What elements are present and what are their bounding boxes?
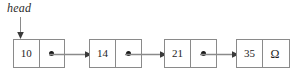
linked-list-diagram: head 10 14 21 — [0, 0, 302, 74]
node-value-1: 10 — [14, 40, 39, 67]
link-arrow-2-to-3 — [125, 50, 168, 59]
node-value-3: 21 — [165, 40, 190, 67]
node-value-4: 35 — [237, 40, 262, 67]
node-value-2: 14 — [90, 40, 115, 67]
link-arrow-1-to-2 — [49, 50, 93, 59]
list-node-4: 35 Ω — [236, 39, 290, 68]
head-arrow-icon — [16, 17, 25, 40]
node-null-pointer-symbol: Ω — [262, 40, 287, 67]
head-pointer-label: head — [7, 1, 31, 15]
link-arrow-3-to-4 — [200, 50, 240, 59]
